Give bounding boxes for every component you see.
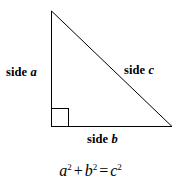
label-side-c-text: side (124, 63, 148, 77)
label-side-b-variable: b (111, 132, 117, 146)
equation-exponent-a: 2 (67, 162, 72, 172)
pythagorean-equation: a2+b2=c2 (0, 163, 181, 179)
label-side-b: side b (87, 133, 118, 146)
right-angle-marker-icon (52, 109, 69, 127)
equation-term-a: a (59, 162, 67, 179)
equation-operator-plus: + (72, 162, 85, 179)
label-side-c: side c (124, 64, 154, 77)
label-side-b-text: side (87, 132, 111, 146)
label-side-c-variable: c (148, 63, 154, 77)
label-side-a-variable: a (30, 65, 36, 79)
pythagorean-theorem-figure: side a side c side b a2+b2=c2 (0, 0, 181, 193)
label-side-a-text: side (6, 65, 30, 79)
label-side-a: side a (6, 66, 37, 79)
equation-term-b: b (85, 162, 93, 179)
equation-exponent-c: 2 (117, 162, 122, 172)
equation-operator-equals: = (97, 162, 110, 179)
